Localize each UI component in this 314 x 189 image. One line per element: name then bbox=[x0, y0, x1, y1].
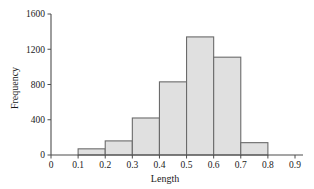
histogram-bar bbox=[105, 141, 132, 155]
x-axis-tick-label: 0.5 bbox=[181, 160, 193, 170]
histogram-bar bbox=[159, 82, 186, 155]
x-axis-tick-label: 0.2 bbox=[99, 160, 111, 170]
histogram-plot: 040080012001600 00.10.20.30.40.50.60.70.… bbox=[0, 0, 314, 189]
histogram-figure: 040080012001600 00.10.20.30.40.50.60.70.… bbox=[0, 0, 314, 189]
x-axis-tick-label: 0.7 bbox=[235, 160, 247, 170]
x-axis-tick-label: 0 bbox=[49, 160, 54, 170]
x-axis-tick-label: 0.4 bbox=[154, 160, 166, 170]
x-axis-tick-label: 0.8 bbox=[262, 160, 274, 170]
x-axis-tick-label: 0.1 bbox=[72, 160, 84, 170]
x-axis: 00.10.20.30.40.50.60.70.80.9 bbox=[49, 155, 303, 170]
y-axis-tick-label: 800 bbox=[31, 80, 46, 90]
y-axis: 040080012001600 bbox=[26, 9, 51, 160]
y-axis-tick-label: 1600 bbox=[26, 9, 45, 19]
y-axis-tick-label: 1200 bbox=[26, 45, 45, 55]
x-axis-tick-label: 0.3 bbox=[126, 160, 138, 170]
x-axis-tick-label: 0.9 bbox=[289, 160, 301, 170]
x-axis-title: Length bbox=[151, 173, 179, 184]
y-axis-tick-label: 0 bbox=[40, 150, 45, 160]
x-axis-tick-label: 0.6 bbox=[208, 160, 220, 170]
y-axis-title: Frequency bbox=[9, 67, 20, 109]
plot-bars bbox=[78, 37, 268, 155]
y-axis-tick-label: 400 bbox=[31, 115, 46, 125]
histogram-bar bbox=[78, 149, 105, 155]
histogram-bar bbox=[241, 143, 268, 155]
histogram-bar bbox=[214, 57, 241, 155]
histogram-bar bbox=[132, 118, 159, 155]
histogram-bar bbox=[187, 37, 214, 155]
